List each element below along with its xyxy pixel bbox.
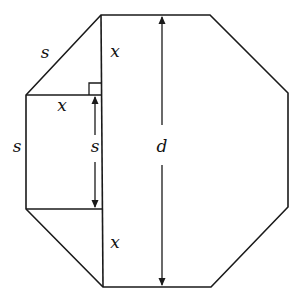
label-bottom-leg: x: [110, 232, 120, 252]
label-horizontal-leg: x: [57, 95, 67, 115]
label-left-side: s: [13, 136, 22, 156]
octagon-diagram: s x x s s d x: [0, 0, 299, 308]
label-diameter: d: [157, 136, 168, 156]
right-angle-marker: [89, 83, 101, 95]
label-slant-side: s: [41, 42, 50, 62]
label-inner-side: s: [91, 136, 100, 156]
label-top-leg: x: [110, 41, 120, 61]
inner-vertical-line: [101, 15, 103, 287]
